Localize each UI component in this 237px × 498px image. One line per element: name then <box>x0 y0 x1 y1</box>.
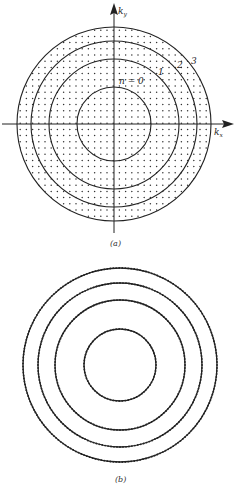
lattice-dot <box>199 67 201 69</box>
ring-point <box>152 379 154 381</box>
ring-point <box>140 285 142 287</box>
lattice-dot <box>106 54 108 56</box>
lattice-dot <box>199 60 201 62</box>
ring-point <box>145 340 147 342</box>
lattice-dot <box>50 67 52 69</box>
ring-point <box>93 305 95 307</box>
lattice-dot <box>150 222 152 224</box>
ring-point <box>89 456 91 458</box>
lattice-dot <box>13 110 15 112</box>
ring-point <box>131 445 133 447</box>
ring-point <box>130 268 132 270</box>
lattice-dot <box>205 36 207 38</box>
lattice-dot <box>162 60 164 62</box>
ring-point <box>172 445 174 447</box>
lattice-dot <box>63 178 65 180</box>
lattice-dot <box>81 110 83 112</box>
lattice-dot <box>150 160 152 162</box>
lattice-dot <box>162 147 164 149</box>
ring-point <box>214 385 216 387</box>
ring-point <box>98 459 100 461</box>
lattice-dot <box>119 191 121 193</box>
lattice-dot <box>150 203 152 205</box>
ring-point <box>86 351 88 353</box>
lattice-dot <box>131 54 133 56</box>
ring-point <box>90 422 92 424</box>
ring-point <box>201 367 203 369</box>
lattice-dot <box>137 60 139 62</box>
ring-point <box>179 390 181 392</box>
lattice-dot <box>168 129 170 131</box>
lattice-dot <box>199 110 201 112</box>
ring-point <box>55 291 57 293</box>
ring-point <box>176 396 178 398</box>
lattice-dot <box>19 153 21 155</box>
ring-point <box>186 294 188 296</box>
lattice-dot <box>106 73 108 75</box>
lattice-dot <box>156 153 158 155</box>
lattice-dot <box>50 222 52 224</box>
lattice-dot <box>32 197 34 199</box>
lattice-dot <box>131 209 133 211</box>
ring-point <box>90 288 92 290</box>
ring-label-1: 1 <box>158 67 164 77</box>
lattice-dot <box>174 60 176 62</box>
ring-point <box>84 372 86 374</box>
ring-point <box>29 401 31 403</box>
ring-point <box>196 423 198 425</box>
ring-point <box>151 307 153 309</box>
lattice-dot <box>187 116 189 118</box>
ring-point <box>165 450 167 452</box>
figure-b: (b) <box>22 267 218 484</box>
ring-point <box>140 426 142 428</box>
ring-point <box>22 372 24 374</box>
lattice-dot <box>168 48 170 50</box>
ring-point <box>84 357 86 359</box>
ring-point <box>84 290 86 292</box>
lattice-dot <box>44 116 46 118</box>
lattice-dot <box>81 29 83 31</box>
ring-point <box>87 380 89 382</box>
lattice-dot <box>205 29 207 31</box>
ring-point <box>214 343 216 345</box>
lattice-dot <box>156 79 158 81</box>
lattice-dot <box>94 23 96 25</box>
lattice-dot <box>38 116 40 118</box>
ring-point <box>140 303 142 305</box>
lattice-dot <box>75 60 77 62</box>
ring-point <box>71 297 73 299</box>
lattice-dot <box>199 178 201 180</box>
ring-point <box>33 319 35 321</box>
ring-point <box>216 370 218 372</box>
ring-point <box>112 267 114 269</box>
ring-point <box>53 293 55 295</box>
ring-point <box>216 367 218 369</box>
lattice-dot <box>88 147 90 149</box>
ring-point <box>92 388 94 390</box>
lattice-dot <box>57 209 59 211</box>
lattice-dot <box>100 79 102 81</box>
lattice-dot <box>26 73 28 75</box>
lattice-dot <box>174 203 176 205</box>
ring-point <box>211 332 213 334</box>
lattice-dot <box>94 147 96 149</box>
rings-b <box>22 267 218 463</box>
ring-point <box>118 400 120 402</box>
lattice-dot <box>81 178 83 180</box>
lattice-dot <box>150 153 152 155</box>
lattice-dot <box>75 172 77 174</box>
lattice-dot <box>44 129 46 131</box>
ring-point <box>165 410 167 412</box>
ring-point <box>89 272 91 274</box>
ring-point <box>216 364 218 366</box>
lattice-dot <box>26 135 28 137</box>
lattice-dot <box>19 91 21 93</box>
ring-point <box>137 444 139 446</box>
lattice-dot <box>38 129 40 131</box>
ring-point <box>101 427 103 429</box>
ring-point <box>64 425 66 427</box>
ring-point <box>212 335 214 337</box>
ring-point <box>113 299 115 301</box>
lattice-dot <box>125 141 127 143</box>
lattice-dot <box>38 48 40 50</box>
